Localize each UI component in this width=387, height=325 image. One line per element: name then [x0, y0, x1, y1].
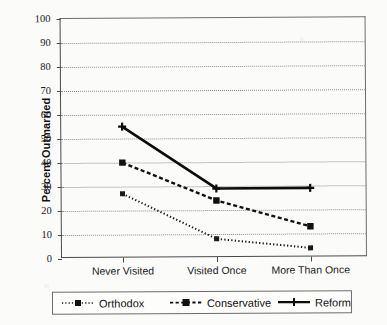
series-layer [61, 17, 368, 259]
x-tick-label: Visited Once [187, 264, 246, 276]
legend-item-orthodox: Orthodox [61, 297, 144, 309]
y-tick-label: 0 [22, 254, 52, 264]
x-tick-label: More Than Once [271, 263, 350, 275]
y-tick-label: 10 [22, 230, 52, 240]
y-tick-label: 100 [21, 14, 51, 24]
chart-legend: Orthodox Conservative Reform [52, 290, 352, 314]
data-point-marker [307, 223, 313, 229]
y-tick-label: 80 [21, 62, 51, 72]
legend-label-orthodox: Orthodox [99, 297, 144, 309]
y-tick-label: 30 [22, 182, 52, 192]
y-tick-label: 90 [21, 38, 51, 48]
data-point-marker [306, 184, 314, 192]
y-tick-label: 40 [21, 158, 51, 168]
dashed-square-line-icon [169, 297, 203, 308]
data-point-marker [213, 197, 219, 203]
plot-area: 0102030405060708090100 Never VisitedVisi… [60, 16, 367, 258]
data-point-marker [119, 159, 125, 165]
legend-label-conservative: Conservative [207, 296, 271, 308]
y-tick-label: 70 [21, 86, 51, 96]
series-line-reform [122, 125, 310, 189]
data-point-marker [308, 245, 313, 250]
y-tick-label: 20 [22, 206, 52, 216]
chart-figure: Percent Outmarried 010203040506070809010… [0, 0, 387, 325]
dotted-square-line-icon [61, 297, 95, 308]
data-point-marker [214, 236, 219, 241]
data-point-marker [120, 191, 125, 196]
y-tick-label: 50 [21, 134, 51, 144]
legend-item-conservative: Conservative [169, 296, 271, 308]
solid-plus-line-icon [277, 297, 311, 308]
series-line-conservative [122, 161, 310, 227]
legend-item-reform: Reform [277, 296, 351, 308]
legend-label-reform: Reform [315, 296, 351, 308]
x-tick-label: Never Visited [92, 264, 154, 276]
y-tick-label: 60 [21, 110, 51, 120]
y-tick-mark [58, 259, 62, 260]
